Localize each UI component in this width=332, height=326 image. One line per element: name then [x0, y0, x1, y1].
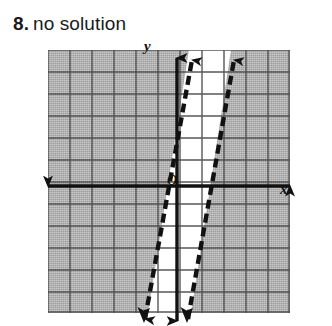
- unshaded-solution-strip: [48, 50, 290, 313]
- coordinate-graph: y x O: [48, 50, 290, 313]
- problem-header: 8.no solution: [13, 13, 126, 35]
- problem-number: 8.: [13, 13, 29, 34]
- problem-answer-text: no solution: [33, 13, 126, 34]
